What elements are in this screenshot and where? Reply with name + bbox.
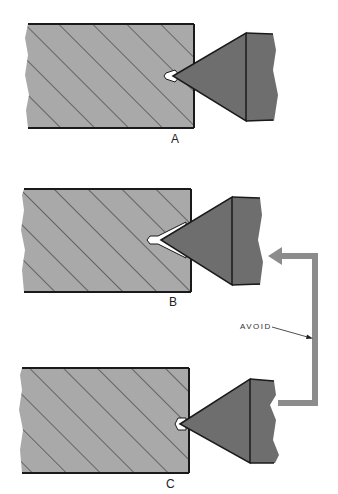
tool-shank-c — [250, 379, 279, 463]
panel-label-a: A — [171, 132, 179, 146]
avoid-arrow — [268, 247, 315, 403]
diagram-canvas — [0, 0, 338, 494]
panel-label-c: C — [166, 477, 175, 491]
panel-a — [25, 24, 278, 128]
avoid-leader-line — [272, 327, 311, 338]
panel-b — [21, 189, 263, 292]
panel-label-b: B — [169, 295, 177, 309]
arrowhead-icon — [268, 247, 282, 265]
tool-shank-b — [232, 197, 263, 285]
avoid-callout: AVOID — [240, 322, 272, 331]
workpiece-c — [19, 368, 189, 473]
tool-shank-a — [246, 33, 278, 121]
panel-c — [19, 368, 279, 473]
tool-cone-c — [180, 379, 250, 463]
